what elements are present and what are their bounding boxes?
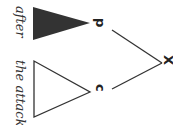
node-p-label: p [93, 18, 108, 27]
edge-root-c [112, 63, 162, 89]
text-after: after [13, 6, 28, 38]
filled-triangle-p [33, 7, 90, 40]
outline-triangle-c [34, 61, 90, 117]
text-the-attack: the attack [13, 60, 28, 125]
node-c-label: c [93, 84, 108, 92]
edge-root-p [112, 30, 162, 63]
root-node-label: X [161, 55, 173, 65]
